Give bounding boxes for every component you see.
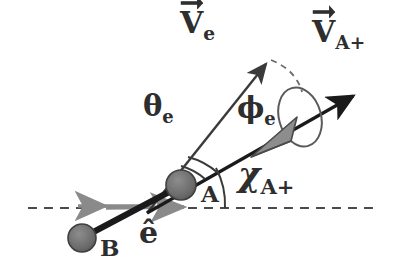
atom-a-text: A [201,180,219,207]
e-hat-base: ê [139,215,158,250]
atom-a-ball [166,170,196,200]
atom-a-label: A [201,182,219,205]
theta-subscript: e [162,106,173,127]
phi-base: ϕ [237,91,264,125]
ion-velocity-subscript: A+ [335,32,365,53]
theta-base: θ [143,89,162,123]
azimuthal-angle-label: ϕe [237,94,276,128]
polar-angle-label: θe [143,92,174,126]
physics-diagram: V e V A+ θe ϕe χA+ ê A B [0,0,403,276]
chi-base: χ [238,154,260,194]
electron-velocity-subscript: e [203,23,215,44]
electron-velocity-vector-label: V e [180,8,215,44]
electron-velocity-base: V [180,5,203,40]
phi-subscript: e [264,108,275,129]
atom-b-text: B [100,234,119,261]
ion-velocity-base: V [312,14,335,49]
scattering-angle-label: χA+ [238,157,294,197]
atom-b-ball [68,224,96,252]
chi-subscript: A+ [260,174,294,199]
atom-b-label: B [100,236,119,259]
unit-vector-label: ê [139,218,158,248]
ion-velocity-vector-label: V A+ [312,17,365,53]
